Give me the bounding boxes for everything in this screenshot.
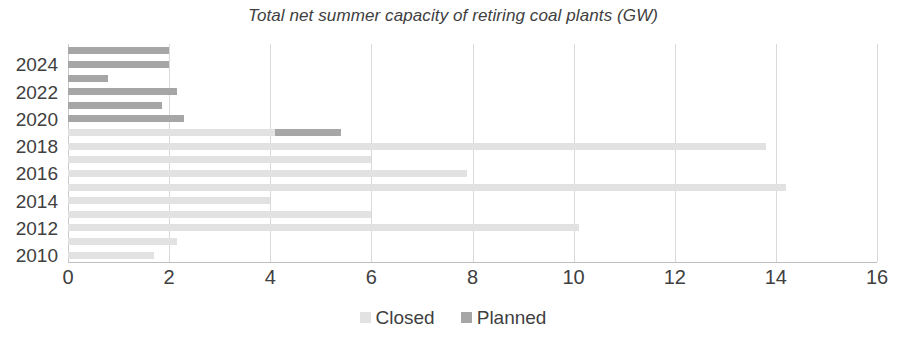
bar-segment-2021-planned[interactable] bbox=[68, 102, 162, 109]
x-tick-label-2: 2 bbox=[164, 267, 175, 287]
bar-segment-2025-planned[interactable] bbox=[68, 47, 169, 54]
bar-segment-2016-closed[interactable] bbox=[68, 170, 467, 177]
chart-title: Total net summer capacity of retiring co… bbox=[0, 6, 906, 26]
x-tick-label-6: 6 bbox=[366, 267, 377, 287]
x-tick-label-10: 10 bbox=[563, 267, 585, 287]
plot-area bbox=[68, 44, 877, 262]
legend-item-planned[interactable]: Planned bbox=[461, 308, 547, 327]
bar-segment-2014-closed[interactable] bbox=[68, 197, 270, 204]
x-axis-line bbox=[68, 262, 877, 263]
bar-row-2022 bbox=[68, 88, 877, 95]
y-tick-label-2020: 2020 bbox=[16, 110, 58, 129]
bar-segment-2019-planned[interactable] bbox=[275, 129, 341, 136]
bar-row-2020 bbox=[68, 115, 877, 122]
x-tick-label-0: 0 bbox=[62, 267, 73, 287]
legend-swatch-planned-icon bbox=[461, 312, 472, 323]
y-tick-label-2022: 2022 bbox=[16, 83, 58, 102]
bar-segment-2010-closed[interactable] bbox=[68, 252, 154, 259]
y-tick-label-2014: 2014 bbox=[16, 192, 58, 211]
bar-segment-2015-closed[interactable] bbox=[68, 184, 786, 191]
bar-row-2015 bbox=[68, 184, 877, 191]
x-tick-label-8: 8 bbox=[467, 267, 478, 287]
bar-segment-2017-closed[interactable] bbox=[68, 156, 371, 163]
bar-row-2013 bbox=[68, 211, 877, 218]
bar-row-2018 bbox=[68, 143, 877, 150]
bar-segment-2022-planned[interactable] bbox=[68, 88, 177, 95]
bar-row-2014 bbox=[68, 197, 877, 204]
legend-swatch-closed-icon bbox=[360, 312, 371, 323]
y-tick-label-2012: 2012 bbox=[16, 219, 58, 238]
bar-row-2010 bbox=[68, 252, 877, 259]
legend-label-planned: Planned bbox=[477, 308, 547, 327]
x-tick-label-16: 16 bbox=[866, 267, 888, 287]
bar-segment-2018-closed[interactable] bbox=[68, 143, 766, 150]
bar-row-2012 bbox=[68, 224, 877, 231]
x-tick-label-12: 12 bbox=[664, 267, 686, 287]
bar-row-2016 bbox=[68, 170, 877, 177]
bar-row-2025 bbox=[68, 47, 877, 54]
bar-row-2011 bbox=[68, 238, 877, 245]
bar-row-2019 bbox=[68, 129, 877, 136]
bar-segment-2023-planned[interactable] bbox=[68, 75, 108, 82]
y-tick-label-2018: 2018 bbox=[16, 137, 58, 156]
y-axis: 20242022202020182016201420122010 bbox=[0, 44, 64, 262]
bar-segment-2019-closed[interactable] bbox=[68, 129, 275, 136]
y-tick-label-2016: 2016 bbox=[16, 164, 58, 183]
y-tick-label-2010: 2010 bbox=[16, 246, 58, 265]
x-tick-label-4: 4 bbox=[265, 267, 276, 287]
bar-segment-2013-closed[interactable] bbox=[68, 211, 371, 218]
bar-segment-2012-closed[interactable] bbox=[68, 224, 579, 231]
chart-legend: ClosedPlanned bbox=[0, 308, 906, 327]
x-tick-label-14: 14 bbox=[765, 267, 787, 287]
bars-layer bbox=[68, 44, 877, 262]
bar-segment-2011-closed[interactable] bbox=[68, 238, 177, 245]
bar-row-2024 bbox=[68, 61, 877, 68]
gridline-16 bbox=[877, 44, 878, 262]
bar-segment-2020-planned[interactable] bbox=[68, 115, 184, 122]
chart-container: Total net summer capacity of retiring co… bbox=[0, 0, 906, 346]
bar-row-2021 bbox=[68, 102, 877, 109]
y-tick-label-2024: 2024 bbox=[16, 55, 58, 74]
x-axis: 0246810121416 bbox=[0, 267, 906, 297]
legend-label-closed: Closed bbox=[376, 308, 435, 327]
bar-segment-2024-planned[interactable] bbox=[68, 61, 169, 68]
legend-item-closed[interactable]: Closed bbox=[360, 308, 435, 327]
bar-row-2023 bbox=[68, 75, 877, 82]
bar-row-2017 bbox=[68, 156, 877, 163]
